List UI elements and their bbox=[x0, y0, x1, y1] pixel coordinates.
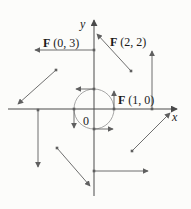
vector-tail-dot bbox=[93, 49, 96, 52]
vector-label: F (0, 3) bbox=[43, 36, 79, 50]
vector-tail-dot bbox=[55, 69, 58, 72]
vector-tail-dot bbox=[130, 70, 133, 73]
vector-field-canvas: x y 0 F (0, 3)F (2, 2)F (1, 0) bbox=[0, 0, 191, 209]
vector-arrow bbox=[57, 148, 90, 186]
vector-arrow bbox=[18, 70, 56, 104]
vector-tail-dot bbox=[151, 108, 154, 111]
origin-label: 0 bbox=[83, 114, 89, 128]
x-axis-label: x bbox=[171, 110, 178, 124]
vector-tail-dot bbox=[93, 170, 96, 173]
vector-tail-dot bbox=[56, 147, 59, 150]
vector-tail-dot bbox=[131, 150, 134, 153]
vector-tail-dot bbox=[37, 109, 40, 112]
vector-label: F (2, 2) bbox=[110, 35, 146, 49]
vector-tail-dot bbox=[73, 108, 76, 111]
y-axis-label: y bbox=[79, 17, 86, 31]
vector-tail-dot bbox=[93, 128, 96, 131]
vector-arrow bbox=[132, 113, 170, 151]
labels-group: x y 0 F (0, 3)F (2, 2)F (1, 0) bbox=[43, 17, 178, 128]
vector-tail-dot bbox=[113, 108, 116, 111]
vector-label: F (1, 0) bbox=[118, 93, 154, 107]
vector-labels-group: F (0, 3)F (2, 2)F (1, 0) bbox=[43, 35, 154, 107]
vector-field-figure: x y 0 F (0, 3)F (2, 2)F (1, 0) bbox=[0, 0, 191, 209]
vector-tail-dot bbox=[93, 88, 96, 91]
